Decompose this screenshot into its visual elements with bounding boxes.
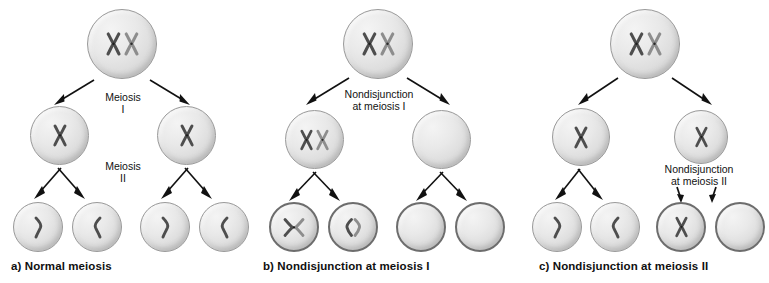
- panel-b-caption: b) Nondisjunction at meiosis I: [263, 260, 430, 272]
- meiosis-i-line1: Meiosis: [105, 91, 141, 103]
- panel-a-meiosis-i-arrow-right: [148, 78, 192, 106]
- chromosome-group: [73, 203, 121, 251]
- panel-a-gamete-cell-1: [13, 202, 63, 252]
- chromosome-x-light-icon: [379, 33, 396, 55]
- meiosis-nondisjunction-figure: Meiosis I: [0, 0, 769, 283]
- chromosome-group: [533, 203, 581, 251]
- chromosome-x-dark-icon: [361, 33, 378, 55]
- panel-a-gamete-cell-4: [199, 202, 249, 252]
- chromatid-right-icon: [160, 217, 171, 238]
- chromosome-group: [158, 107, 215, 164]
- panel-c-meiosis-i-arrow-left: [575, 76, 620, 106]
- chromosome-group: [591, 203, 639, 251]
- panel-b-parent-cell: [343, 9, 413, 79]
- panel-c-intermediate-cell-left: [552, 108, 610, 166]
- chromosome-group: [553, 109, 609, 165]
- chromatid-right-icon: [33, 217, 44, 238]
- panel-b-intermediate-cell-right: [412, 110, 471, 169]
- panel-a-gamete-cell-3: [140, 202, 190, 252]
- nondisjunction-ii-line1: Nondisjunction: [665, 163, 734, 175]
- chromosome-group: [141, 203, 189, 251]
- panel-b-meiosis-ii-arrow-4: [438, 170, 470, 202]
- panel-b-intermediate-cell-left: [285, 110, 344, 169]
- panel-a-meiosis-i-arrow-left: [52, 78, 96, 106]
- panel-a-meiosis-ii-arrow-2: [56, 166, 88, 200]
- panel-a-normal-meiosis: Meiosis I: [0, 0, 255, 283]
- nondisjunction-i-line2: at meiosis I: [352, 100, 405, 112]
- panel-c-nondisjunction-meiosis-ii: Nondisjunction at meiosis II: [510, 0, 769, 283]
- panel-c-gamete-cell-2: [590, 202, 640, 252]
- panel-a-caption: a) Normal meiosis: [11, 260, 112, 272]
- chromosome-x-dark-icon: [299, 130, 314, 150]
- panel-c-meiosis-ii-arrow-4: [706, 186, 720, 204]
- panel-c-intermediate-cell-right: [674, 110, 728, 164]
- panel-b-nondisjunction-meiosis-i: Nondisjunction at meiosis I: [255, 0, 510, 283]
- panel-b-gamete-cell-2: [328, 202, 378, 252]
- chromosome-x-light-icon: [123, 33, 140, 55]
- chromatid-left-icon: [92, 217, 103, 238]
- chromosome-group: [88, 10, 156, 78]
- chromatid-right-icon: [552, 217, 563, 238]
- chromosome-group: [286, 111, 343, 168]
- chromosome-x-dark-icon: [694, 127, 709, 147]
- panel-c-gamete-cell-4: [715, 202, 765, 252]
- chromosome-group: [14, 203, 62, 251]
- meiosis-ii-line2: II: [120, 172, 126, 184]
- panel-c-meiosis-i-arrow-right: [670, 76, 715, 106]
- panel-a-gamete-cell-2: [72, 202, 122, 252]
- panel-c-caption: c) Nondisjunction at meiosis II: [539, 260, 708, 272]
- panel-b-gamete-cell-3: [396, 202, 446, 252]
- panel-a-meiosis-i-label: Meiosis I: [95, 91, 151, 115]
- panel-c-gamete-cell-3: [656, 202, 706, 252]
- panel-b-gamete-cell-1: [269, 202, 319, 252]
- chromosome-x-dark-icon: [52, 125, 68, 146]
- chromosome-x-dark-icon: [179, 125, 195, 146]
- panel-b-gamete-cell-4: [455, 202, 505, 252]
- two-chromatids-crossed-icon: [283, 218, 305, 237]
- panel-b-nondisjunction-label: Nondisjunction at meiosis I: [338, 88, 420, 112]
- chromosome-x-dark-icon: [674, 217, 689, 237]
- chromosome-x-light-icon: [646, 33, 663, 55]
- two-chromatids-split-icon: [342, 218, 364, 237]
- chromosome-x-light-icon: [315, 130, 330, 150]
- panel-c-gamete-cell-1: [532, 202, 582, 252]
- chromosome-x-dark-icon: [573, 127, 589, 148]
- nondisjunction-i-line1: Nondisjunction: [345, 88, 414, 100]
- panel-b-meiosis-ii-arrow-2: [311, 170, 343, 202]
- panel-a-intermediate-cell-left: [30, 106, 89, 165]
- panel-c-nondisjunction-label: Nondisjunction at meiosis II: [657, 163, 741, 187]
- meiosis-i-line2: I: [122, 103, 125, 115]
- chromosome-group: [611, 10, 679, 78]
- chromosome-x-dark-icon: [628, 33, 645, 55]
- panel-a-meiosis-ii-arrow-4: [183, 166, 215, 200]
- chromosome-group: [31, 107, 88, 164]
- chromatid-left-icon: [219, 217, 230, 238]
- chromosome-group: [330, 204, 376, 250]
- chromosome-group: [271, 204, 317, 250]
- panel-c-parent-cell: [610, 9, 680, 79]
- chromosome-x-dark-icon: [105, 33, 122, 55]
- chromosome-group: [344, 10, 412, 78]
- panel-a-intermediate-cell-right: [157, 106, 216, 165]
- chromatid-left-icon: [610, 217, 621, 238]
- panel-c-meiosis-ii-arrow-2: [576, 167, 606, 201]
- panel-a-parent-cell: [87, 9, 157, 79]
- chromosome-group: [658, 204, 704, 250]
- panel-a-meiosis-ii-label: Meiosis II: [95, 160, 151, 184]
- chromosome-group: [200, 203, 248, 251]
- meiosis-ii-line1: Meiosis: [105, 160, 141, 172]
- chromosome-group: [675, 111, 727, 163]
